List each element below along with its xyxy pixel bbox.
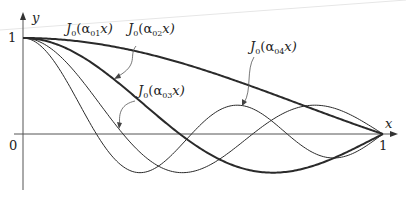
origin-label: 0 (9, 138, 17, 153)
curves (23, 38, 383, 173)
scan-artifact (0, 0, 406, 30)
arrowhead-alpha04-icon (242, 99, 247, 106)
label-j0-alpha04: J0(α04x) (247, 39, 297, 56)
curve-j0-alpha03 (23, 38, 383, 173)
curve-j0-alpha01 (23, 38, 383, 134)
y-tick-1: 1 (8, 30, 16, 45)
y-axis-arrow-icon (20, 12, 26, 20)
x-axis-arrow-icon (390, 131, 398, 137)
label-j0-alpha02: J0(α02x) (125, 21, 175, 38)
y-axis-label: y (31, 10, 40, 25)
leader-alpha04 (244, 57, 254, 103)
leader-alpha03 (120, 101, 135, 126)
bessel-diagram: y x 1 1 0 J0(α01x) J0(α02x) J0(α03x) J0(… (0, 0, 406, 198)
axes: y x 1 1 0 (8, 10, 398, 190)
arrowhead-alpha02-icon (114, 73, 121, 79)
curve-j0-alpha04 (23, 38, 383, 173)
x-axis-label: x (385, 116, 393, 131)
curve-j0-alpha02 (23, 38, 383, 173)
x-tick-1: 1 (379, 138, 387, 153)
label-j0-alpha03: J0(α03x) (135, 83, 185, 100)
label-j0-alpha01: J0(α01x) (63, 21, 113, 38)
